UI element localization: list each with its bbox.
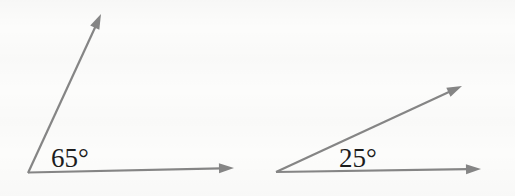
angle-label: 25° <box>339 143 377 173</box>
angle-figure-left: 65° <box>28 14 234 173</box>
arrowhead-icon <box>446 86 462 97</box>
scanned-figure-canvas: 65° 25° <box>0 0 515 196</box>
angle-label: 65° <box>51 143 89 173</box>
arrowhead-icon <box>466 164 481 174</box>
angles-diagram: 65° 25° <box>0 0 515 196</box>
arrowhead-icon <box>219 163 234 173</box>
angle-figure-right: 25° <box>276 86 481 174</box>
arrowhead-icon <box>90 14 101 30</box>
